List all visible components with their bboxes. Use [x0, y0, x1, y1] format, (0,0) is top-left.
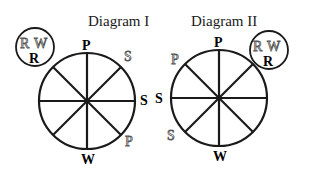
d2-label-bottom-left: S [167, 128, 175, 143]
d1-label-bottom-right: P [125, 134, 133, 149]
diagram-2-wheel [171, 50, 267, 146]
diagram-1-wheel [39, 53, 135, 149]
d2-label-bottom: W [213, 149, 227, 164]
d1-label-right: S [140, 93, 148, 108]
d2-label-left: S [155, 91, 163, 106]
inset-2-top-left: R [253, 39, 263, 54]
inset-1-bottom: R [29, 51, 40, 66]
d2-label-top: P [214, 35, 223, 50]
d1-label-top-right: S [124, 49, 132, 64]
inset-2-bottom: R [263, 54, 274, 69]
inset-1-top-left: R [20, 36, 30, 51]
diagram-2-inset: R W R [250, 31, 288, 69]
inset-1-top-right: W [34, 36, 48, 51]
inset-2-top-right: W [267, 39, 281, 54]
diagram-1-inset: R W R [16, 28, 54, 66]
d1-label-top: P [82, 38, 91, 53]
d2-label-top-left: P [171, 52, 179, 67]
diagram-canvas: R W R P S S P W R W R P P S S W [0, 0, 309, 175]
d1-label-bottom: W [81, 152, 95, 167]
